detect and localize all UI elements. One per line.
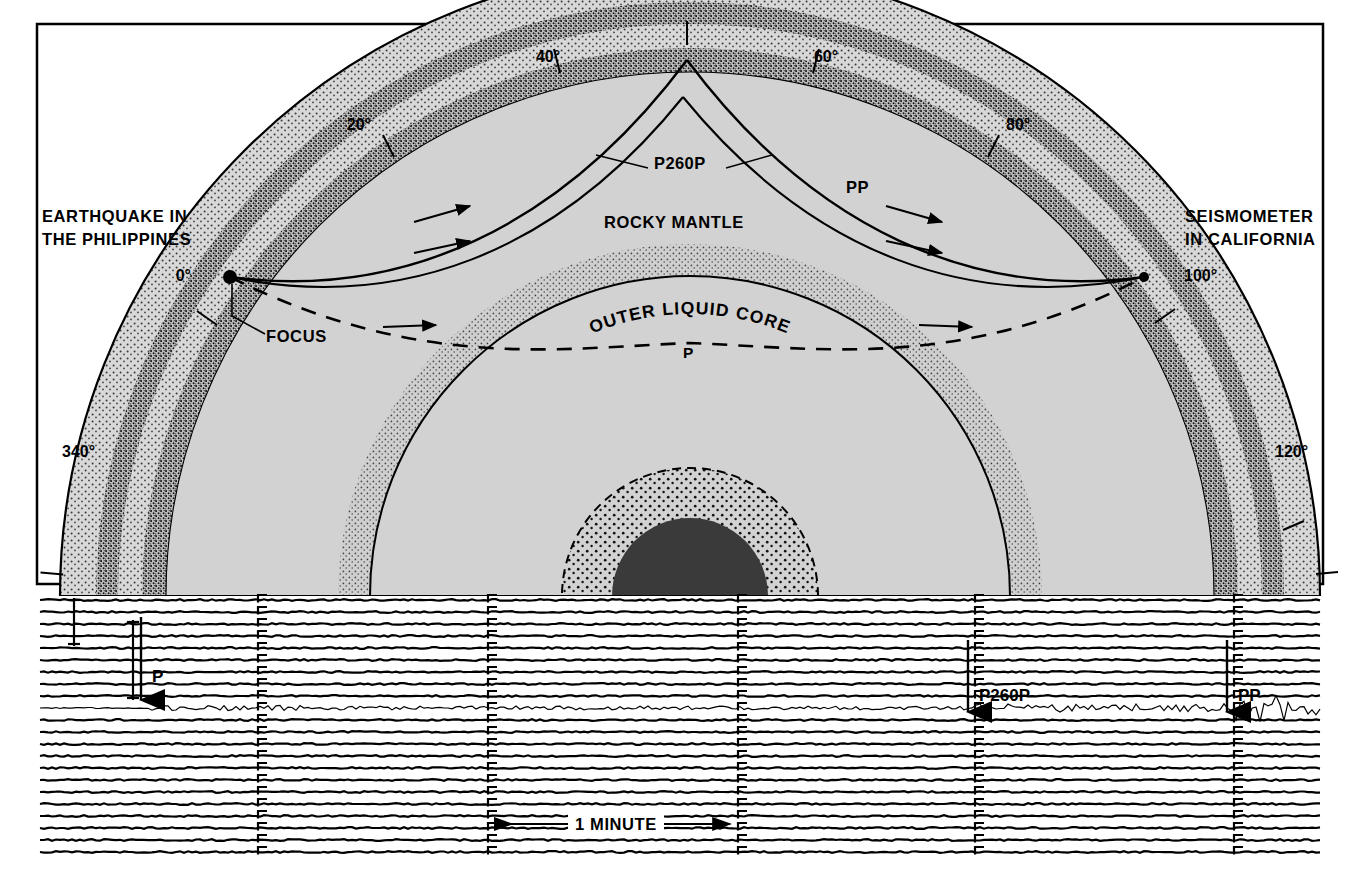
timing-offset-tick — [975, 619, 984, 627]
timing-offset-tick — [738, 811, 747, 819]
timing-offset-tick — [975, 679, 984, 687]
timing-offset-tick — [258, 823, 267, 831]
timing-offset-tick — [488, 667, 497, 675]
pp-ray-label: PP — [846, 178, 869, 196]
seismogram-trace — [40, 779, 1320, 781]
timing-offset-tick — [738, 775, 747, 783]
timing-offset-tick — [1234, 763, 1243, 771]
timing-offset-tick — [975, 607, 984, 615]
p-ray-label: P — [683, 344, 693, 361]
p260p-ray-label: P260P — [654, 154, 706, 172]
seismogram-trace — [40, 767, 1320, 769]
receiver-label-line1: SEISMOMETER — [1185, 207, 1314, 225]
timing-offset-tick — [975, 631, 984, 639]
arrival-marker-pp: PP — [1227, 640, 1261, 712]
timing-offset-tick — [488, 751, 497, 759]
timing-offset-tick — [258, 727, 267, 735]
timing-offset-tick — [258, 799, 267, 807]
seismogram-trace — [40, 659, 1320, 661]
timing-offset-tick — [1234, 679, 1243, 687]
seismogram-trace — [40, 671, 1320, 673]
seismogram-trace — [40, 803, 1320, 805]
scale-bar: 1 MINUTE — [496, 812, 730, 836]
scale-bar-label-backing — [568, 812, 664, 836]
timing-offset-tick — [738, 739, 747, 747]
angle-label-40: 40° — [536, 48, 560, 65]
timing-offset-tick — [488, 847, 497, 855]
timing-offset-tick — [975, 775, 984, 783]
timing-offset-tick — [1234, 823, 1243, 831]
seismogram-trace — [40, 839, 1320, 841]
timing-offset-tick — [258, 619, 267, 627]
timing-offset-tick — [258, 787, 267, 795]
timing-offset-tick — [1234, 811, 1243, 819]
timing-offset-tick — [975, 691, 984, 699]
seismogram-trace — [40, 635, 1320, 637]
timing-offset-tick — [1234, 775, 1243, 783]
timing-offset-tick — [738, 763, 747, 771]
timing-offset-tick — [975, 727, 984, 735]
timing-offset-tick — [1234, 787, 1243, 795]
timing-offset-tick — [1234, 847, 1243, 855]
timing-offset-tick — [975, 787, 984, 795]
timing-offset-tick — [738, 727, 747, 735]
timing-offset-tick — [1234, 751, 1243, 759]
timing-offset-tick — [258, 691, 267, 699]
timing-offset-tick — [258, 847, 267, 855]
angle-label-340: 340° — [62, 443, 95, 460]
timing-offset-tick — [1234, 703, 1243, 711]
seismogram-trace-active — [40, 696, 1320, 722]
angle-label-0: 0° — [176, 267, 191, 284]
timing-offset-tick — [738, 751, 747, 759]
timing-offset-tick — [488, 619, 497, 627]
timing-offset-tick — [488, 631, 497, 639]
source-label-line2: THE PHILIPPINES — [42, 230, 191, 248]
timing-offset-tick — [258, 739, 267, 747]
timing-offset-tick — [738, 835, 747, 843]
mantle-label: ROCKY MANTLE — [604, 213, 744, 231]
timing-offset-tick — [258, 751, 267, 759]
source-label-line1: EARTHQUAKE IN — [42, 207, 187, 225]
seismogram-trace — [40, 851, 1320, 853]
timing-offset-tick — [488, 799, 497, 807]
timing-offset-tick — [975, 763, 984, 771]
timing-offset-tick — [975, 835, 984, 843]
timing-offset-tick — [975, 847, 984, 855]
timing-offset-tick — [258, 655, 267, 663]
timing-offset-tick — [738, 631, 747, 639]
timing-offset-tick — [258, 667, 267, 675]
timing-offset-tick — [1234, 619, 1243, 627]
timing-offset-tick — [738, 667, 747, 675]
timing-offset-tick — [975, 655, 984, 663]
timing-offset-tick — [1234, 607, 1243, 615]
seismogram-trace — [40, 827, 1320, 829]
timing-offset-tick — [488, 835, 497, 843]
figure-page: EARTHQUAKE IN THE PHILIPPINES SEISMOMETE… — [0, 0, 1360, 872]
calibration-marks — [68, 598, 139, 700]
timing-offset-tick — [1234, 691, 1243, 699]
timing-offset-tick — [738, 787, 747, 795]
focus-point — [223, 270, 237, 284]
timing-offset-tick — [488, 787, 497, 795]
timing-offset-tick — [738, 799, 747, 807]
angle-label-80: 80° — [1006, 116, 1030, 133]
timing-offset-tick — [738, 823, 747, 831]
timing-offset-tick — [738, 703, 747, 711]
seismogram-frame — [37, 596, 1323, 854]
timing-offset-tick — [258, 703, 267, 711]
timing-offset-tick — [258, 643, 267, 651]
timing-offset-tick — [738, 691, 747, 699]
timing-offset-tick — [975, 643, 984, 651]
receiver-label-line2: IN CALIFORNIA — [1185, 230, 1316, 248]
timing-offset-tick — [738, 847, 747, 855]
angle-label-20: 20° — [347, 116, 371, 133]
timing-offset-tick — [1234, 727, 1243, 735]
timing-offset-tick — [488, 679, 497, 687]
timing-offset-tick — [1234, 835, 1243, 843]
seismogram-trace — [40, 815, 1320, 817]
pp-marker-label: PP — [1238, 686, 1261, 705]
seismogram-traces — [40, 599, 1320, 853]
timing-offset-tick — [258, 763, 267, 771]
timing-offset-tick — [975, 751, 984, 759]
p-marker-label: P — [152, 667, 163, 686]
